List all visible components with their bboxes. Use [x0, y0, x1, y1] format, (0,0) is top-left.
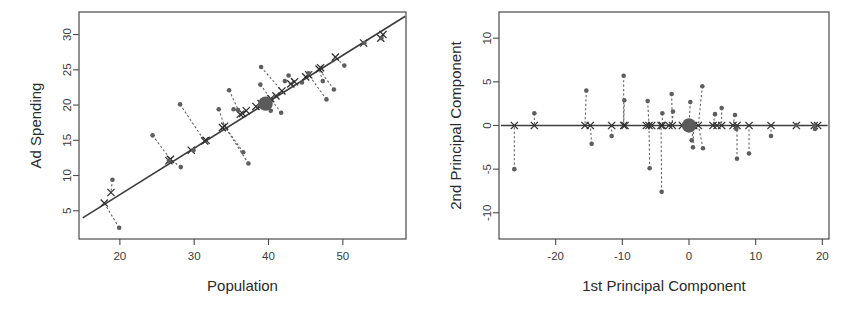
x-tick-label: 0: [686, 250, 692, 262]
observation-points: [110, 36, 384, 230]
y-tick-label: 0: [481, 122, 493, 128]
x-tick-label: 40: [262, 250, 275, 262]
chart-panel-principal-components: -20-1001020-10-505101st Principal Compon…: [425, 0, 851, 316]
x-tick-label: -10: [614, 250, 631, 262]
scatter-plot-left: 2030405051015202530PopulationAd Spending: [0, 0, 425, 316]
figure-root: 2030405051015202530PopulationAd Spending…: [0, 0, 851, 316]
y-tick-label: 20: [61, 99, 73, 112]
x-tick-label: -20: [547, 250, 564, 262]
x-axis-title: Population: [207, 277, 278, 294]
x-tick-label: 10: [749, 250, 762, 262]
y-tick-label: 30: [61, 28, 73, 41]
y-tick-label: 10: [481, 32, 493, 45]
principal-component-line: [83, 16, 406, 218]
x-tick-label: 30: [188, 250, 201, 262]
residual-segments: [514, 76, 815, 192]
chart-panel-population-ad-spending: 2030405051015202530PopulationAd Spending: [0, 0, 425, 316]
y-tick-label: -10: [481, 204, 493, 221]
x-tick-label: 20: [816, 250, 829, 262]
y-tick-label: 15: [61, 134, 73, 147]
y-tick-label: 25: [61, 63, 73, 76]
x-tick-label: 20: [113, 250, 126, 262]
y-axis-title: Ad Spending: [27, 83, 44, 169]
scatter-plot-right: -20-1001020-10-505101st Principal Compon…: [425, 0, 851, 316]
y-tick-label: -5: [481, 164, 493, 174]
y-tick-label: 5: [61, 208, 73, 214]
x-tick-label: 50: [336, 250, 349, 262]
observation-points: [512, 73, 817, 194]
residual-segments: [104, 57, 344, 228]
x-axis-title: 1st Principal Component: [582, 277, 746, 294]
y-tick-label: 5: [481, 79, 493, 85]
y-tick-label: 10: [61, 169, 73, 182]
mean-point: [682, 118, 696, 132]
mean-point: [258, 96, 272, 110]
y-axis-title: 2nd Principal Component: [447, 40, 464, 209]
